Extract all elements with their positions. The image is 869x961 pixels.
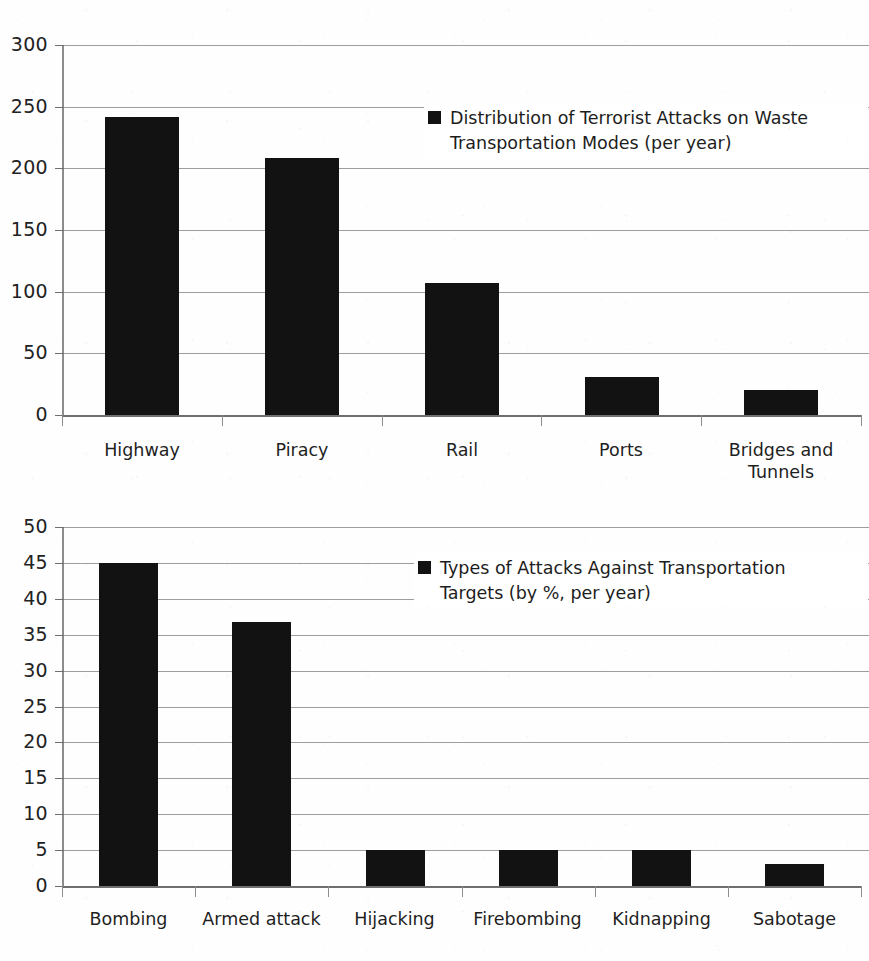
x-axis-category-label: Piracy <box>222 439 382 461</box>
y-axis-tick <box>55 850 64 851</box>
y-gridline <box>62 850 869 851</box>
legend-label: Distribution of Terrorist Attacks on Was… <box>450 106 808 156</box>
y-axis-tick <box>55 778 64 779</box>
x-axis-category-label: Bridges and Tunnels <box>701 439 861 483</box>
y-gridline <box>62 635 869 636</box>
y-gridline <box>62 168 869 169</box>
x-axis-line <box>62 415 861 417</box>
y-gridline <box>62 778 869 779</box>
y-gridline <box>62 671 869 672</box>
x-axis-category-label: Bombing <box>62 908 195 930</box>
y-gridline <box>62 45 869 46</box>
x-axis-tick <box>595 886 596 897</box>
x-axis-tick <box>328 886 329 897</box>
y-axis-tick-label: 5 <box>0 840 48 859</box>
y-axis-tick-label: 50 <box>0 343 48 362</box>
y-axis-tick <box>55 599 64 600</box>
bar[interactable] <box>99 563 158 886</box>
y-axis-tick-label: 35 <box>0 625 48 644</box>
y-axis-tick-label: 250 <box>0 97 48 116</box>
y-axis-tick-label: 50 <box>0 517 48 536</box>
y-axis-tick-label: 30 <box>0 661 48 680</box>
bar[interactable] <box>585 377 659 415</box>
bar[interactable] <box>265 158 339 415</box>
y-axis-tick <box>55 671 64 672</box>
y-axis-tick <box>55 563 64 564</box>
bar[interactable] <box>105 117 179 415</box>
y-axis-tick <box>55 635 64 636</box>
bar[interactable] <box>499 850 558 886</box>
legend-swatch-icon <box>428 111 441 124</box>
x-axis-category-label: Highway <box>62 439 222 461</box>
y-gridline <box>62 742 869 743</box>
x-axis-category-label: Ports <box>541 439 701 461</box>
x-axis-category-label: Rail <box>382 439 542 461</box>
bar[interactable] <box>744 390 818 415</box>
y-axis-tick-label: 100 <box>0 282 48 301</box>
y-axis-tick <box>55 107 64 108</box>
y-axis-tick-label: 25 <box>0 697 48 716</box>
x-axis-category-label: Armed attack <box>195 908 328 930</box>
x-axis-category-label: Kidnapping <box>595 908 728 930</box>
y-axis-tick <box>55 45 64 46</box>
x-axis-tick <box>462 886 463 897</box>
y-axis-tick <box>55 292 64 293</box>
x-axis-tick <box>861 415 862 426</box>
y-axis-tick <box>55 742 64 743</box>
y-axis-tick-label: 0 <box>0 405 48 424</box>
y-axis-tick-label: 20 <box>0 732 48 751</box>
y-axis-tick <box>55 353 64 354</box>
y-axis-tick <box>55 527 64 528</box>
y-axis-tick-label: 40 <box>0 589 48 608</box>
bar[interactable] <box>425 283 499 415</box>
y-axis-tick <box>55 814 64 815</box>
chart-legend: Types of Attacks Against Transportation … <box>414 554 868 608</box>
bar[interactable] <box>232 622 291 886</box>
x-axis-tick <box>701 415 702 426</box>
x-axis-tick <box>195 886 196 897</box>
y-gridline <box>62 707 869 708</box>
y-gridline <box>62 230 869 231</box>
y-axis-tick-label: 200 <box>0 158 48 177</box>
y-axis-tick-label: 300 <box>0 35 48 54</box>
x-axis-category-label: Sabotage <box>728 908 861 930</box>
bar[interactable] <box>765 864 824 886</box>
y-axis-tick-label: 15 <box>0 768 48 787</box>
chart-legend: Distribution of Terrorist Attacks on Was… <box>424 104 868 158</box>
y-axis-tick-label: 0 <box>0 876 48 895</box>
x-axis-category-label: Firebombing <box>461 908 594 930</box>
x-axis-tick <box>382 415 383 426</box>
x-axis-tick <box>62 886 63 897</box>
y-gridline <box>62 814 869 815</box>
y-axis-tick <box>55 230 64 231</box>
legend-label: Types of Attacks Against Transportation … <box>440 556 786 606</box>
chart-terrorist-attacks-waste-transportation-modes: 300250200150100500HighwayPiracyRailPorts… <box>0 0 869 500</box>
y-axis-tick <box>55 707 64 708</box>
scanned-figure-page: 300250200150100500HighwayPiracyRailPorts… <box>0 0 869 961</box>
chart-types-of-attacks-transportation-targets: 50454035302520151050BombingArmed attackH… <box>0 500 869 961</box>
x-axis-tick <box>728 886 729 897</box>
x-axis-tick <box>861 886 862 897</box>
y-axis-tick <box>55 168 64 169</box>
x-axis-category-label: Hijacking <box>328 908 461 930</box>
x-axis-tick <box>62 415 63 426</box>
legend-swatch-icon <box>418 561 431 574</box>
y-axis-tick-label: 150 <box>0 220 48 239</box>
y-gridline <box>62 527 869 528</box>
x-axis-tick <box>541 415 542 426</box>
y-axis-tick-label: 45 <box>0 553 48 572</box>
x-axis-tick <box>222 415 223 426</box>
bar[interactable] <box>366 850 425 886</box>
y-axis-tick-label: 10 <box>0 804 48 823</box>
bar[interactable] <box>632 850 691 886</box>
